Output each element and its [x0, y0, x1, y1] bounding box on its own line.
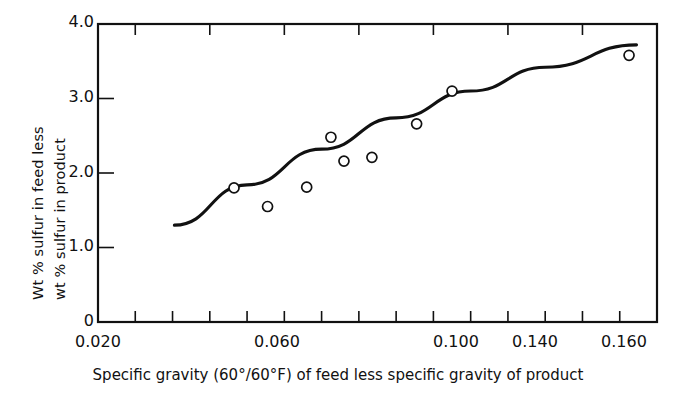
data-point-8 — [624, 50, 634, 60]
plot-canvas — [0, 0, 676, 402]
data-point-3 — [326, 132, 336, 142]
data-point-0 — [229, 183, 239, 193]
data-point-6 — [412, 119, 422, 129]
data-point-1 — [263, 202, 273, 212]
chart-figure: Wt % sulfur in feed less wt % sulfur in … — [0, 0, 676, 402]
x-axis-ticks — [135, 311, 619, 322]
data-point-2 — [302, 182, 312, 192]
data-point-7 — [447, 86, 457, 96]
data-point-4 — [339, 156, 349, 166]
axes-frame — [98, 24, 657, 322]
data-points — [229, 50, 634, 211]
data-point-5 — [367, 152, 377, 162]
x-axis-top-ticks — [135, 24, 657, 35]
trend-line — [174, 45, 636, 225]
y-axis-ticks — [98, 99, 114, 248]
